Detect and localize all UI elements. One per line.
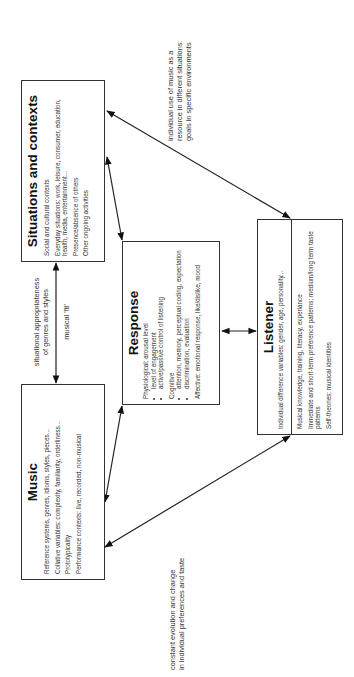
response-box: Response Physiological: arousal level le…	[122, 241, 220, 405]
listener-body: Musical knowledge, training, literacy, e…	[292, 220, 342, 434]
music-item: Collative variables: complexity, familia…	[54, 390, 62, 574]
evolution-line: constant evolution and change	[168, 520, 177, 670]
situations-item: Social and cultural contexts	[43, 86, 51, 256]
situational-fit-line: of genres and styles	[41, 267, 50, 377]
physiological-list: level of engagement active/passive contr…	[150, 247, 165, 399]
listener-item: Immediate and short-term preference patt…	[307, 225, 322, 429]
arrow-situations-response	[107, 157, 122, 240]
evolution-line: in individual preferences and taste	[177, 520, 186, 670]
individual-use-line: individual use of music as a	[166, 1, 175, 141]
diagram-canvas: Situations and contexts Social and cultu…	[0, 0, 354, 677]
situations-title: Situations and contexts	[25, 81, 40, 261]
situations-box: Situations and contexts Social and cultu…	[21, 80, 105, 262]
individual-use-line: goals in specific environments	[184, 1, 193, 141]
physiological-bullet: level of engagement	[150, 247, 158, 389]
music-box: Music Reference systems, genres, idioms,…	[21, 384, 105, 580]
response-body: Physiological: arousal level level of en…	[142, 242, 201, 404]
listener-box: Listener Individual difference variables…	[257, 219, 343, 435]
music-title: Music	[25, 385, 40, 579]
listener-item: Musical knowledge, training, literacy, e…	[296, 225, 304, 429]
situational-fit-line: situational appropriateness	[32, 267, 41, 377]
cognitive-bullet: attention, memory, perceptual coding, ex…	[175, 247, 183, 389]
arrow-music-response	[105, 406, 122, 502]
arrow-situations-listener	[107, 111, 290, 218]
response-cognitive: Cognitive	[168, 247, 176, 399]
cognitive-list: attention, memory, perceptual coding, ex…	[175, 247, 190, 399]
situational-fit-label: situational appropriateness of genres an…	[32, 267, 50, 377]
arrow-music-listener	[105, 436, 290, 547]
cognitive-bullet: discrimination, evaluation	[183, 247, 191, 389]
individual-use-label: individual use of music as a resource in…	[166, 1, 193, 141]
response-title: Response	[126, 242, 141, 404]
music-item: Prototypicality	[64, 390, 72, 574]
music-body: Reference systems, genres, idioms, style…	[43, 385, 82, 579]
listener-item: Self-theories: musical identities	[325, 225, 333, 429]
individual-use-line: resource in different situations:	[175, 1, 184, 141]
response-affective: Affective: emotional response, like/disl…	[194, 247, 202, 399]
music-item: Reference systems, genres, idioms, style…	[43, 390, 51, 574]
physiological-bullet: active/passive control of listening	[157, 247, 165, 389]
music-item: Performance contexts: live, recorded, no…	[75, 390, 83, 574]
listener-title: Listener	[261, 220, 276, 434]
situations-item: Other ongoing activities	[82, 86, 90, 256]
evolution-label: constant evolution and change in individ…	[168, 520, 186, 670]
listener-header: Listener Individual difference variables…	[258, 220, 292, 434]
situations-item: Everyday situations: work, leisure, cons…	[54, 86, 69, 256]
musical-fit-label: musical 'fit'	[62, 267, 71, 377]
situations-body: Social and cultural contexts Everyday si…	[43, 81, 90, 261]
listener-top-item: Individual difference variables: gender,…	[277, 220, 285, 434]
response-physiological: Physiological: arousal level	[142, 247, 150, 399]
situations-item: Presence/absence of others	[72, 86, 80, 256]
